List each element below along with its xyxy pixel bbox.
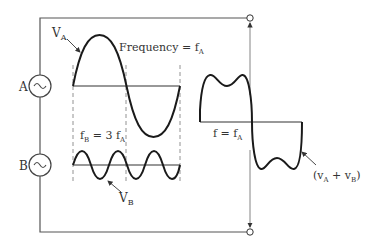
terminal-top xyxy=(247,15,253,21)
vb-label: VB xyxy=(118,191,134,207)
source-b: B xyxy=(19,154,51,176)
va-label: VA xyxy=(51,26,67,42)
sum-label: (vA + vB) xyxy=(313,169,360,184)
source-a-label: A xyxy=(18,80,28,94)
f-equals-label: f = fA xyxy=(213,127,243,142)
vb-pointer xyxy=(108,181,121,192)
fb-label: fB = 3 fA xyxy=(80,129,126,144)
source-a: A xyxy=(18,75,51,97)
terminal-bottom xyxy=(247,229,253,235)
va-pointer xyxy=(67,39,80,52)
frequency-label: Frequency = fA xyxy=(119,41,205,56)
source-b-label: B xyxy=(19,159,28,173)
sum-pointer xyxy=(302,152,316,165)
circuit-diagram: A B VA Frequency = fA fB = 3 fA VB f = f… xyxy=(0,0,381,244)
